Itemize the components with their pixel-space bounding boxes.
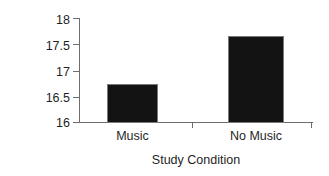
x-axis-title: Study Condition bbox=[79, 153, 313, 167]
bar-music[interactable] bbox=[107, 84, 158, 123]
x-category-label-no-music: No Music bbox=[222, 129, 290, 143]
x-category-label-music: Music bbox=[107, 129, 158, 143]
bar-no-music[interactable] bbox=[228, 36, 284, 123]
bar-chart: Quiz Score 18 17.5 17 16.5 16 Music No M… bbox=[0, 0, 329, 176]
plot-area bbox=[0, 0, 329, 176]
